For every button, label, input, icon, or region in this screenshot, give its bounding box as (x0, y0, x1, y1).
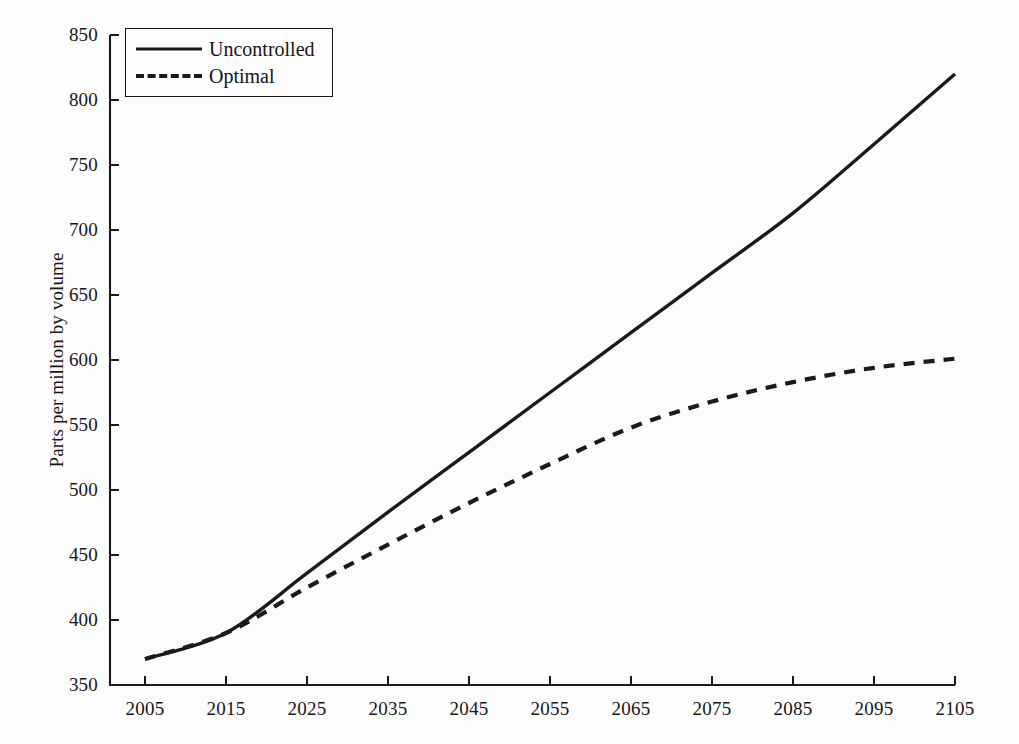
chart-legend: Uncontrolled Optimal (125, 28, 333, 97)
y-tick-label: 500 (69, 479, 98, 501)
axis-lines (110, 35, 955, 685)
x-tick-label: 2015 (207, 698, 246, 720)
legend-line-dashed-icon (136, 69, 202, 83)
y-tick-label: 350 (69, 674, 98, 696)
x-tick-label: 2025 (288, 698, 327, 720)
legend-label: Optimal (209, 65, 275, 88)
x-tick-label: 2005 (126, 698, 165, 720)
y-tick-label: 750 (69, 154, 98, 176)
legend-item-optimal: Optimal (136, 64, 275, 88)
y-tick-label: 550 (69, 414, 98, 436)
series-line-optimal (145, 359, 955, 659)
x-tick-label: 2035 (369, 698, 408, 720)
series-line-uncontrolled (145, 74, 955, 659)
x-tick-label: 2055 (531, 698, 570, 720)
x-tick-label: 2075 (693, 698, 732, 720)
x-tick-label: 2105 (936, 698, 975, 720)
y-tick-label: 600 (69, 349, 98, 371)
legend-line-solid-icon (136, 42, 202, 56)
x-tick-label: 2095 (855, 698, 894, 720)
chart-figure: Parts per million by volume 850800750700… (0, 0, 1019, 744)
legend-item-uncontrolled: Uncontrolled (136, 37, 315, 61)
y-tick-label: 850 (69, 24, 98, 46)
x-tick-label: 2045 (450, 698, 489, 720)
y-axis-label: Parts per million by volume (46, 253, 68, 468)
y-tick-label: 650 (69, 284, 98, 306)
axis-ticks (110, 35, 955, 685)
legend-label: Uncontrolled (209, 38, 315, 61)
data-series (145, 74, 955, 659)
y-tick-label: 800 (69, 89, 98, 111)
plot-area (0, 0, 1019, 744)
x-tick-label: 2065 (612, 698, 651, 720)
y-tick-label: 450 (69, 544, 98, 566)
y-tick-label: 400 (69, 609, 98, 631)
y-tick-label: 700 (69, 219, 98, 241)
x-tick-label: 2085 (774, 698, 813, 720)
